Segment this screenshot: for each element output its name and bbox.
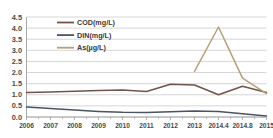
y-axis-tick-label: 3.5 — [12, 35, 22, 44]
x-axis-tick-label: 2006 — [19, 122, 34, 129]
x-axis-tick-label: 2009 — [91, 122, 106, 129]
x-axis-tick-label: 2014.8 — [232, 122, 253, 129]
x-axis-tick-label: 2011 — [139, 122, 154, 129]
y-axis-tick-label: 2.5 — [12, 57, 22, 66]
y-axis-tick-label: 4.5 — [12, 13, 22, 22]
x-axis-tick-label: 2014.4 — [208, 122, 229, 129]
y-axis-tick-label: 0.0 — [12, 113, 22, 122]
legend-label: COD(mg/L) — [77, 18, 116, 27]
legend-label: DIN(mg/L) — [77, 31, 112, 40]
y-axis-tick-label: 3.0 — [12, 46, 22, 55]
chart-plot-area: 0.00.51.01.52.02.53.03.54.04.5 200620072… — [0, 0, 273, 138]
line-chart: 0.00.51.01.52.02.53.03.54.04.5 200620072… — [0, 0, 273, 138]
x-axis-tick-label: 2015 — [259, 122, 273, 129]
y-axis-tick-label: 0.5 — [12, 101, 22, 110]
x-axis-tick-labels: 200620072008200920102011201220132014.420… — [19, 122, 273, 129]
y-axis-tick-label: 4.0 — [12, 24, 22, 33]
x-axis-tick-label: 2010 — [115, 122, 130, 129]
x-axis-tick-label: 2008 — [67, 122, 82, 129]
legend-label: As(µg/L) — [77, 43, 107, 52]
x-axis-tick-label: 2012 — [163, 122, 178, 129]
x-axis-tick-label: 2007 — [43, 122, 58, 129]
x-axis-tick-label: 2013 — [187, 122, 202, 129]
y-axis-tick-label: 1.0 — [12, 90, 22, 99]
y-axis-tick-label: 1.5 — [12, 79, 22, 88]
y-axis-tick-label: 2.0 — [12, 68, 22, 77]
chart-svg: 0.00.51.01.52.02.53.03.54.04.5 200620072… — [0, 0, 273, 138]
